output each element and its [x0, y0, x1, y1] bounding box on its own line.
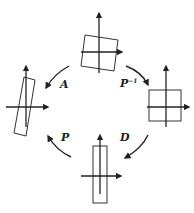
label-P-inverse: P−1: [119, 77, 137, 90]
bottom-frame: [81, 135, 121, 203]
eigendecomposition-diagram: A P−1 P D: [0, 0, 194, 213]
right-frame: [147, 66, 189, 127]
label-A: A: [59, 78, 69, 91]
top-frame: [81, 13, 122, 73]
label-P-inverse-sup: −1: [128, 77, 137, 84]
left-frame: [6, 66, 48, 136]
label-D: D: [119, 131, 130, 144]
label-P: P: [60, 131, 70, 144]
square: [149, 90, 181, 121]
